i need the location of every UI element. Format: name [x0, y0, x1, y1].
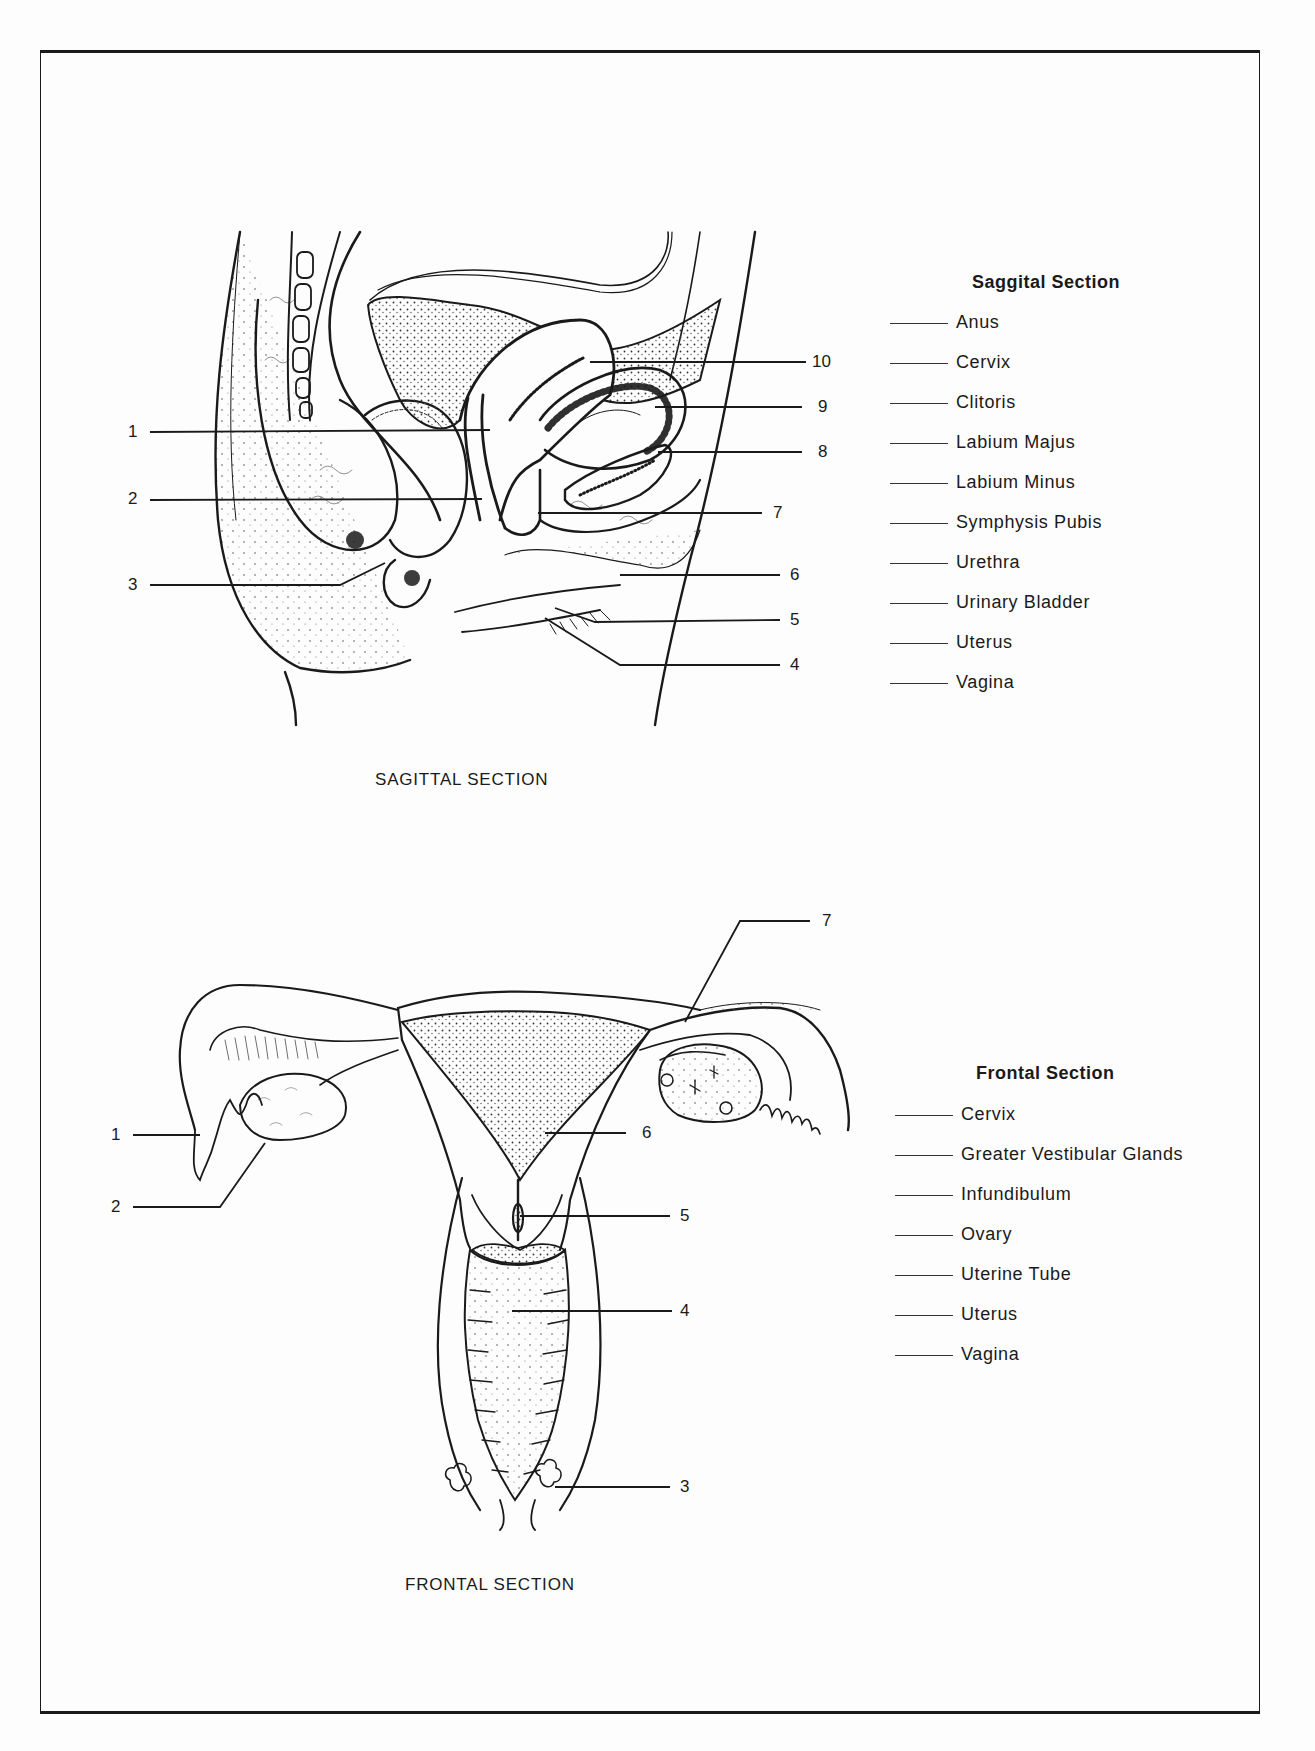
frontal-list-item[interactable]: Vagina	[895, 1342, 1019, 1366]
frontal-list-item[interactable]: Cervix	[895, 1102, 1016, 1126]
answer-blank[interactable]	[890, 483, 948, 484]
answer-blank[interactable]	[890, 323, 948, 324]
answer-blank[interactable]	[890, 643, 948, 644]
sagittal-list-item[interactable]: Labium Minus	[890, 470, 1075, 494]
answer-blank[interactable]	[890, 683, 948, 684]
sagittal-callout-4: 4	[790, 655, 799, 675]
sagittal-list-title: Saggital Section	[972, 272, 1120, 293]
sagittal-callout-1: 1	[128, 422, 137, 442]
answer-blank[interactable]	[895, 1235, 953, 1236]
frontal-leader-lines	[133, 921, 810, 1487]
frontal-callout-5: 5	[680, 1206, 689, 1226]
answer-blank[interactable]	[890, 443, 948, 444]
answer-blank[interactable]	[895, 1195, 953, 1196]
sagittal-callout-9: 9	[818, 397, 827, 417]
anatomy-illustrations	[0, 0, 1315, 1751]
sagittal-list-item[interactable]: Cervix	[890, 350, 1011, 374]
answer-blank[interactable]	[890, 523, 948, 524]
frontal-callout-3: 3	[680, 1477, 689, 1497]
frontal-list-item[interactable]: Infundibulum	[895, 1182, 1071, 1206]
sagittal-callout-10: 10	[812, 352, 831, 372]
sagittal-callout-2: 2	[128, 489, 137, 509]
frontal-list-item[interactable]: Uterine Tube	[895, 1262, 1071, 1286]
answer-blank[interactable]	[890, 403, 948, 404]
answer-blank[interactable]	[895, 1355, 953, 1356]
frontal-callout-1: 1	[111, 1125, 120, 1145]
sagittal-callout-5: 5	[790, 610, 799, 630]
frontal-list-item[interactable]: Greater Vestibular Glands	[895, 1142, 1183, 1166]
answer-blank[interactable]	[895, 1315, 953, 1316]
sagittal-caption: SAGITTAL SECTION	[375, 770, 548, 790]
sagittal-callout-7: 7	[773, 503, 782, 523]
sagittal-list-item[interactable]: Uterus	[890, 630, 1013, 654]
sagittal-list-item[interactable]: Urethra	[890, 550, 1020, 574]
answer-blank[interactable]	[890, 563, 948, 564]
frontal-callout-4: 4	[680, 1301, 689, 1321]
frontal-list-item[interactable]: Uterus	[895, 1302, 1018, 1326]
sagittal-list-item[interactable]: Symphysis Pubis	[890, 510, 1102, 534]
sagittal-callout-8: 8	[818, 442, 827, 462]
sagittal-list-item[interactable]: Urinary Bladder	[890, 590, 1090, 614]
frontal-caption: FRONTAL SECTION	[405, 1575, 575, 1595]
sagittal-drawing	[215, 232, 755, 725]
frontal-drawing	[180, 985, 849, 1530]
answer-blank[interactable]	[895, 1115, 953, 1116]
sagittal-list-item[interactable]: Vagina	[890, 670, 1014, 694]
sagittal-callout-3: 3	[128, 575, 137, 595]
frontal-callout-2: 2	[111, 1197, 120, 1217]
sagittal-list-item[interactable]: Clitoris	[890, 390, 1016, 414]
frontal-callout-7: 7	[822, 911, 831, 931]
answer-blank[interactable]	[890, 603, 948, 604]
sagittal-callout-6: 6	[790, 565, 799, 585]
sagittal-list-item[interactable]: Labium Majus	[890, 430, 1075, 454]
frontal-callout-6: 6	[642, 1123, 651, 1143]
frontal-list-title: Frontal Section	[976, 1063, 1115, 1084]
sagittal-list-item[interactable]: Anus	[890, 310, 999, 334]
answer-blank[interactable]	[890, 363, 948, 364]
answer-blank[interactable]	[895, 1155, 953, 1156]
answer-blank[interactable]	[895, 1275, 953, 1276]
frontal-list-item[interactable]: Ovary	[895, 1222, 1012, 1246]
